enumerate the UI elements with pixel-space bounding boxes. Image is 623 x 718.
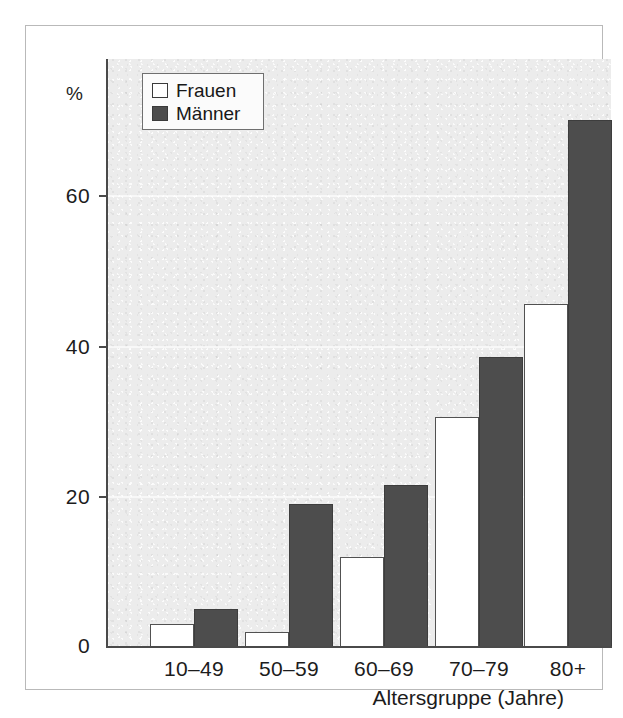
bars-layer <box>26 26 623 718</box>
bar-maenner-10-49[interactable] <box>194 609 238 647</box>
x-tick-label-10-49: 10–49 <box>150 658 238 679</box>
legend: Frauen Männer <box>142 73 264 130</box>
legend-label-frauen: Frauen <box>176 81 236 100</box>
x-axis-title: Altersgruppe (Jahre) <box>373 687 564 708</box>
bar-frauen-60-69[interactable] <box>340 557 384 647</box>
bar-frauen-70-79[interactable] <box>435 417 479 647</box>
bar-maenner-60-69[interactable] <box>384 485 428 647</box>
bar-frauen-80plus[interactable] <box>524 304 568 647</box>
y-tick-label-60: 60 <box>26 185 90 206</box>
y-axis-unit-label: % <box>66 83 83 105</box>
y-tick-label-40: 40 <box>26 336 90 357</box>
legend-item-frauen[interactable]: Frauen <box>152 79 263 102</box>
y-tick-20 <box>99 496 107 498</box>
bar-maenner-80plus[interactable] <box>568 120 612 647</box>
y-tick-label-20: 20 <box>26 486 90 507</box>
y-tick-40 <box>99 346 107 348</box>
bar-frauen-50-59[interactable] <box>245 632 289 647</box>
x-tick-label-50-59: 50–59 <box>245 658 333 679</box>
figure-frame: 60 40 20 0 % Frauen Männer 10–49 50–59 6… <box>25 25 603 690</box>
x-axis-line <box>106 646 612 648</box>
bar-maenner-50-59[interactable] <box>289 504 333 647</box>
figure-container: 60 40 20 0 % Frauen Männer 10–49 50–59 6… <box>0 0 623 718</box>
x-tick-label-70-79: 70–79 <box>435 658 523 679</box>
x-tick-label-60-69: 60–69 <box>340 658 428 679</box>
y-tick-label-0: 0 <box>26 635 90 656</box>
legend-swatch-maenner-icon <box>152 106 168 121</box>
y-axis-line <box>106 59 108 648</box>
bar-maenner-70-79[interactable] <box>479 357 523 647</box>
bar-frauen-10-49[interactable] <box>150 624 194 647</box>
legend-swatch-frauen-icon <box>152 83 168 98</box>
legend-label-maenner: Männer <box>176 104 240 123</box>
x-tick-label-80plus: 80+ <box>524 658 612 679</box>
y-tick-60 <box>99 195 107 197</box>
legend-item-maenner[interactable]: Männer <box>152 102 263 125</box>
